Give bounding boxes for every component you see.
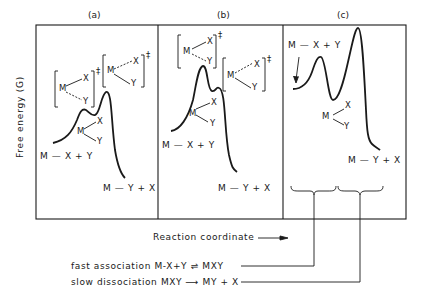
products-b: M — Y + X xyxy=(218,183,271,193)
y-axis-label: Free energy (G) xyxy=(15,76,25,158)
reactants-a: M — X + Y xyxy=(40,151,93,161)
products-c: M — Y + X xyxy=(348,155,401,165)
ts2-y: Y xyxy=(252,82,258,92)
ts1-x: X xyxy=(83,73,89,83)
slow-product: MY + X xyxy=(203,277,239,287)
ts2-x: X xyxy=(133,56,139,66)
ts1-mark: ‡ xyxy=(218,30,223,40)
ts1-m: M xyxy=(183,46,191,56)
ts1-x: X xyxy=(207,36,213,46)
connector-slow xyxy=(241,195,360,282)
equilibrium-arrow-icon: ⇌ xyxy=(191,261,199,271)
ts2-m: M xyxy=(227,70,235,80)
ts2-x: X xyxy=(254,59,260,69)
int-m: M xyxy=(77,126,85,136)
products-a: M — Y + X xyxy=(103,183,156,193)
int-y: Y xyxy=(97,136,103,146)
fast-eq: M-X+Y xyxy=(154,261,187,271)
right-arrow-icon: ⟶ xyxy=(186,277,200,287)
curve-b xyxy=(171,66,237,172)
fast-prefix: fast association xyxy=(71,261,151,271)
ts2-m: M xyxy=(107,65,115,75)
ts2-mark: ‡ xyxy=(146,50,151,60)
ts1-y: Y xyxy=(83,96,89,106)
slow-prefix: slow dissociation xyxy=(71,277,157,287)
panel-label-b: (b) xyxy=(217,10,230,20)
int-x: X xyxy=(345,100,351,110)
fast-product: MXY xyxy=(202,261,223,271)
panel-label-a: (a) xyxy=(88,10,101,20)
panel-label-c: (c) xyxy=(337,10,349,20)
int-x: X xyxy=(211,97,217,107)
reactants-c: M — X + Y xyxy=(288,40,341,50)
fast-association-label: fast association M-X+Y ⇌ MXY xyxy=(71,261,224,271)
slow-eq: MXY xyxy=(161,277,182,287)
ts2-y: Y xyxy=(131,78,137,88)
int-m: M xyxy=(322,111,330,121)
ts2-mark: ‡ xyxy=(267,54,272,64)
int-y: Y xyxy=(210,118,216,128)
x-axis-label: Reaction coordinate xyxy=(153,232,254,242)
connector-fast xyxy=(241,195,314,266)
ts1-y: Y xyxy=(207,56,213,66)
int-x: X xyxy=(97,116,103,126)
ts1-m: M xyxy=(59,83,67,93)
int-m: M xyxy=(189,108,197,118)
brace-left xyxy=(291,186,336,195)
int-y: Y xyxy=(344,121,350,131)
ts1-mark: ‡ xyxy=(96,66,101,76)
slow-dissociation-label: slow dissociation MXY ⟶ MY + X xyxy=(71,277,239,287)
curve-a xyxy=(53,92,125,178)
reactants-b: M — X + Y xyxy=(162,140,215,150)
brace-right xyxy=(338,186,383,195)
